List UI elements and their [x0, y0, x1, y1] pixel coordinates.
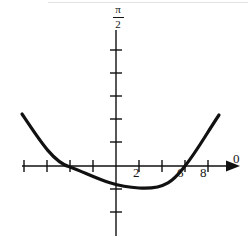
- x-tick-label-6: 6: [177, 166, 184, 179]
- y-axis-label-numerator: π: [107, 4, 129, 16]
- x-tick-label-8: 8: [200, 166, 207, 179]
- x-tick-label-2: 2: [133, 166, 140, 179]
- plot-canvas: [0, 0, 249, 241]
- y-axis-label-denominator: 2: [107, 19, 129, 31]
- parabola-graph-figure: π 2 2 6 8 0: [0, 0, 249, 241]
- y-axis-top-label: π 2: [107, 4, 129, 30]
- parabola-curve: [22, 114, 219, 188]
- x-axis-end-label: 0: [233, 152, 240, 165]
